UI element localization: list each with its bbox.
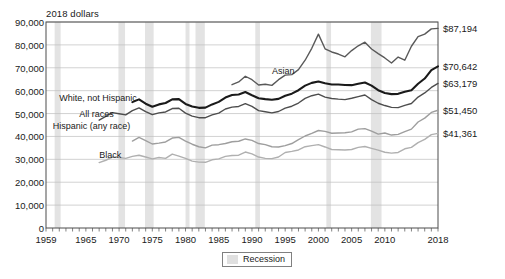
x-axis-tick-label: 2018: [427, 234, 448, 245]
recession-band: [326, 22, 331, 228]
series-line-asian: [232, 28, 438, 85]
x-axis-tick-label: 2000: [308, 234, 329, 245]
end-value-label: $87,194: [443, 23, 477, 34]
x-axis-tick-label: 1985: [208, 234, 229, 245]
recession-band: [255, 22, 260, 228]
series-line-hispanic-any-race: [132, 110, 438, 148]
legend-label-recession: Recession: [243, 254, 285, 264]
y-axis-tick-label: 90,000: [2, 17, 44, 28]
series-annotation-label: All races: [79, 109, 114, 119]
x-axis-tick-label: 1959: [35, 234, 56, 245]
recession-swatch-icon: [227, 255, 238, 264]
y-axis-tick-label: 30,000: [2, 154, 44, 165]
y-axis-tick-label: 0: [2, 223, 44, 234]
y-axis-tick-label: 70,000: [2, 62, 44, 73]
x-axis-tick-label: 1965: [75, 234, 96, 245]
x-axis-tick-label: 1970: [109, 234, 130, 245]
recession-band: [186, 22, 190, 228]
series-annotation-label: Black: [99, 150, 121, 160]
x-axis-tick-label: 1980: [175, 234, 196, 245]
y-axis-tick-label: 50,000: [2, 108, 44, 119]
legend: Recession: [222, 252, 292, 267]
series-annotation-label: White, not Hispanic: [59, 93, 137, 103]
income-by-race-line-chart: 2018 dollars 90,00080,00070,00060,00050,…: [0, 0, 505, 279]
y-axis-tick-label: 20,000: [2, 177, 44, 188]
recession-band: [195, 22, 204, 228]
y-axis-tick-label: 80,000: [2, 39, 44, 50]
recession-band: [145, 22, 154, 228]
end-value-label: $51,450: [443, 105, 477, 116]
x-axis-tick-label: 2005: [341, 234, 362, 245]
end-value-label: $70,642: [443, 61, 477, 72]
x-axis-tick-label: 2010: [374, 234, 395, 245]
series-annotation-label: Asian: [272, 66, 295, 76]
x-axis-tick-label: 1990: [241, 234, 262, 245]
end-value-label: $41,361: [443, 128, 477, 139]
x-axis-tick-label: 1995: [275, 234, 296, 245]
y-axis-tick-label: 40,000: [2, 131, 44, 142]
x-axis-tick-label: 1975: [142, 234, 163, 245]
y-axis-tick-label: 60,000: [2, 85, 44, 96]
y-axis-tick-label: 10,000: [2, 200, 44, 211]
series-annotation-label: Hispanic (any race): [53, 121, 131, 131]
end-value-label: $63,179: [443, 78, 477, 89]
y-axis-units-label: 2018 dollars: [46, 8, 99, 19]
